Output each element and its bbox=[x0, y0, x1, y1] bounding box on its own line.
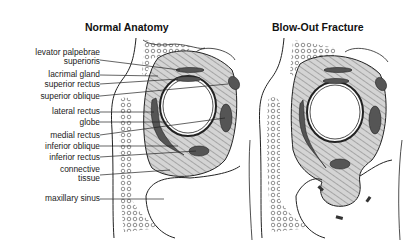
bone-fragment bbox=[365, 196, 371, 203]
blow-out-fracture-drawing bbox=[259, 38, 402, 240]
bone-fragment bbox=[336, 215, 344, 220]
normal-anatomy-drawing bbox=[100, 38, 252, 240]
anatomy-illustration bbox=[0, 0, 418, 246]
